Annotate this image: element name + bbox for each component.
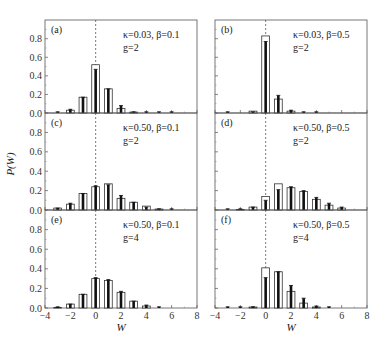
y-axis-title: P(W) xyxy=(4,152,17,177)
y-tick-label: 0.6 xyxy=(30,52,43,63)
filled-bar xyxy=(264,278,267,308)
panel-label: (d) xyxy=(221,117,233,129)
y-tick-label: 0.0 xyxy=(30,205,43,216)
filled-bar xyxy=(120,195,123,210)
x-tick-label: −4 xyxy=(210,310,221,321)
y-tick-label: 0.4 xyxy=(30,166,43,177)
filled-bar xyxy=(107,185,110,210)
filled-bar xyxy=(277,190,280,210)
x-tick-label: 8 xyxy=(365,310,370,321)
panel-label: (c) xyxy=(51,117,62,129)
y-tick-label: 0.8 xyxy=(30,127,43,138)
panel-label: (f) xyxy=(221,214,231,226)
y-tick-label: 0.6 xyxy=(30,146,43,157)
panel-d: (d)κ=0.50, β=0.5g=2 xyxy=(215,113,367,210)
filled-bar xyxy=(107,89,110,113)
panel-params-line1: κ=0.50, β=0.1 xyxy=(123,219,179,230)
x-tick-label: 4 xyxy=(144,310,149,321)
panel-params-line1: κ=0.03, β=0.1 xyxy=(123,29,179,40)
x-tick-label: −2 xyxy=(235,310,246,321)
panel-params-line2: g=2 xyxy=(123,42,139,53)
filled-bar xyxy=(132,202,135,210)
x-tick-label: 4 xyxy=(314,310,319,321)
panel-c: 0.00.20.40.60.8(c)κ=0.50, β=0.1g=2 xyxy=(30,113,198,216)
y-tick-label: 0.6 xyxy=(30,244,43,255)
filled-bar xyxy=(290,110,293,113)
filled-bar xyxy=(264,42,267,114)
x-tick-label: 8 xyxy=(195,310,200,321)
panel-label: (a) xyxy=(51,24,62,36)
x-tick-label: 2 xyxy=(119,310,124,321)
panels-group: 0.00.20.40.60.8(a)κ=0.03, β=0.1g=2(b)κ=0… xyxy=(30,20,370,321)
panel-f: −4−202468(f)κ=0.50, β=0.5g=4 xyxy=(210,210,370,321)
filled-bar xyxy=(82,97,85,113)
filled-bar xyxy=(120,106,123,113)
filled-bar xyxy=(82,294,85,308)
y-tick-label: 0.0 xyxy=(30,108,43,119)
panel-a: 0.00.20.40.60.8(a)κ=0.03, β=0.1g=2 xyxy=(30,20,198,119)
x-tick-label: 0 xyxy=(93,310,98,321)
x-tick-label: −2 xyxy=(65,310,76,321)
filled-bar xyxy=(315,197,318,210)
filled-bar xyxy=(69,203,72,210)
filled-bar xyxy=(120,291,123,308)
y-tick-label: 0.4 xyxy=(30,263,43,274)
panel-params-line1: κ=0.03, β=0.5 xyxy=(293,29,349,40)
filled-bar xyxy=(94,186,97,210)
filled-bar xyxy=(340,207,343,210)
filled-bar xyxy=(69,109,72,113)
filled-bar xyxy=(277,272,280,308)
y-tick-label: 0.2 xyxy=(30,283,43,294)
filled-bar xyxy=(94,69,97,113)
panel-label: (b) xyxy=(221,24,233,36)
filled-bar xyxy=(302,191,305,210)
panel-params-line2: g=2 xyxy=(123,135,139,146)
filled-bar xyxy=(290,285,293,308)
x-tick-label: −4 xyxy=(40,310,51,321)
panel-params-line2: g=4 xyxy=(123,232,139,243)
filled-bar xyxy=(82,194,85,210)
x-tick-label: 2 xyxy=(289,310,294,321)
x-tick-label: 6 xyxy=(339,310,344,321)
panel-params-line1: κ=0.50, β=0.5 xyxy=(293,219,349,230)
filled-bar xyxy=(132,301,135,308)
panel-e: 0.00.20.40.60.8−4−202468(e)κ=0.50, β=0.1… xyxy=(30,210,200,321)
panel-b: (b)κ=0.03, β=0.5g=2 xyxy=(215,20,367,113)
filled-bar xyxy=(107,280,110,308)
filled-bar xyxy=(94,278,97,308)
filled-bar xyxy=(290,187,293,210)
filled-bar xyxy=(302,298,305,308)
x-tick-label: 0 xyxy=(263,310,268,321)
y-tick-label: 0.2 xyxy=(30,89,43,100)
filled-bar xyxy=(277,95,280,113)
filled-bar xyxy=(264,200,267,210)
panel-params-line1: κ=0.50, β=0.5 xyxy=(293,122,349,133)
y-tick-label: 0.8 xyxy=(30,224,43,235)
x-axis-title-left: W xyxy=(116,321,126,333)
filled-bar xyxy=(69,304,72,308)
x-tick-label: 6 xyxy=(169,310,174,321)
y-tick-label: 0.4 xyxy=(30,70,43,81)
filled-bar xyxy=(252,207,255,210)
y-tick-label: 0.2 xyxy=(30,185,43,196)
panel-params-line2: g=4 xyxy=(293,232,309,243)
panel-label: (e) xyxy=(51,214,62,226)
filled-bar xyxy=(145,305,148,308)
filled-bar xyxy=(328,203,331,210)
panel-params-line1: κ=0.50, β=0.1 xyxy=(123,122,179,133)
figure-canvas: 0.00.20.40.60.8(a)κ=0.03, β=0.1g=2(b)κ=0… xyxy=(0,0,385,345)
y-tick-label: 0.8 xyxy=(30,33,43,44)
x-axis-title-right: W xyxy=(286,321,296,333)
panel-params-line2: g=2 xyxy=(293,135,309,146)
panel-params-line2: g=2 xyxy=(293,42,309,53)
filled-bar xyxy=(145,207,148,210)
